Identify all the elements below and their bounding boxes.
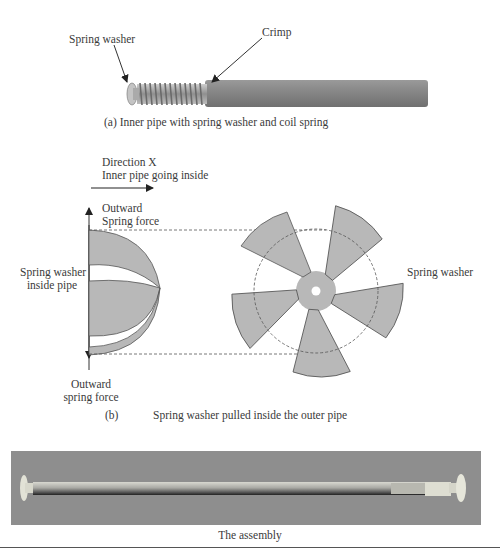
- caption-part-a: (a) Inner pipe with spring washer and co…: [104, 115, 328, 129]
- label-crimp: Crimp: [262, 25, 291, 39]
- crimp-pointer: [212, 38, 262, 82]
- label-inner-pipe-going-inside: Inner pipe going inside: [102, 168, 208, 182]
- label-washer-inside-1: Spring washer: [20, 265, 84, 279]
- caption-part-b-letter: (b): [105, 408, 118, 422]
- caption-divider: [0, 547, 500, 548]
- label-spring-washer: Spring washer: [69, 32, 135, 46]
- inner-pipe-illustration: [114, 38, 428, 107]
- label-outward-bottom-1: Outward: [61, 377, 121, 391]
- label-outward-top-1: Outward: [102, 201, 142, 215]
- washer-center-hole: [312, 287, 321, 296]
- assembly-outer-pipe: [33, 482, 433, 495]
- label-outward-top-2: Spring force: [102, 214, 159, 228]
- outer-pipe-body: [205, 80, 428, 107]
- assembly-inner-pipe: [425, 482, 451, 496]
- washer-side-view: [89, 208, 160, 370]
- washer-front-view: [218, 195, 423, 399]
- label-direction-x: Direction X: [102, 155, 157, 169]
- label-washer-inside-2: inside pipe: [20, 278, 84, 292]
- spring-washer-pointer: [114, 45, 127, 82]
- label-outward-bottom-2: spring force: [56, 390, 126, 404]
- caption-part-b-text: Spring washer pulled inside the outer pi…: [153, 408, 347, 422]
- caption-assembly: The assembly: [0, 528, 500, 542]
- assembly-photo: [11, 451, 481, 525]
- label-spring-washer-right: Spring washer: [407, 265, 473, 279]
- assembly-right-cap: [456, 474, 466, 502]
